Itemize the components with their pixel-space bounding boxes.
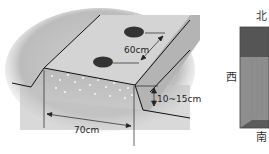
- seed-hole-2: [93, 57, 113, 68]
- compass-block: [240, 27, 269, 128]
- height-label: 10~15cm: [157, 94, 201, 104]
- north-label: 北: [256, 11, 267, 22]
- seed-hole-1: [124, 27, 144, 38]
- block-top-band: [240, 27, 269, 57]
- west-label: 西: [226, 72, 237, 83]
- south-label: 南: [256, 132, 267, 143]
- spacing-label: 60cm: [124, 45, 149, 55]
- width-label: 70cm: [74, 125, 99, 135]
